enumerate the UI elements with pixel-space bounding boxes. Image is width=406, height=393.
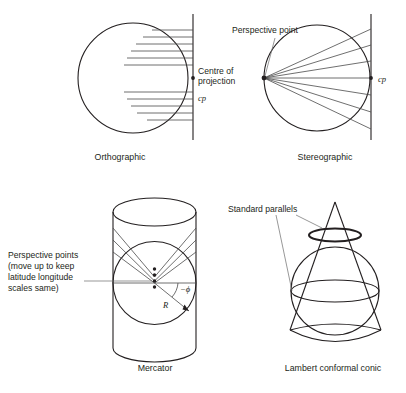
lambert-leader-line-lower [276,215,292,291]
mercator-caption: Mercator [138,363,173,373]
orthographic-caption: Orthographic [95,152,146,162]
lambert-leader-line-upper [296,215,322,228]
lambert-caption: Lambert conformal conic [285,363,382,373]
stereographic-cp-dot [369,76,373,80]
lambert-cone-right-slant [335,202,381,330]
panel-orthographic: Centre of projection cp Orthographic [78,14,235,162]
mercator-cylinder-bottom-arc [113,348,196,362]
lambert-cone-base-arc-back [290,324,381,330]
panel-mercator: −ϕ R Perspective points (move up to keep… [8,198,196,373]
panel-stereographic: Perspective point cp Stereographic [232,14,387,162]
lambert-standard-parallel-upper [309,229,361,242]
lambert-cone-base-arc-front [290,330,381,342]
orthographic-annotation-line1: Centre of [198,66,234,76]
mercator-radius-label: R [162,300,169,310]
stereographic-perspective-point-dot [262,76,267,81]
orthographic-globe [78,23,188,133]
orthographic-cp-symbol: cp [198,93,207,103]
mercator-annotation-line2: (move up to keep [8,261,75,271]
orthographic-projection-rays [124,30,193,120]
lambert-cone-left-slant [290,202,335,330]
map-projection-figure: Centre of projection cp Orthographic Per… [0,0,406,393]
panel-lambert: Standard parallels Lambert conformal con… [228,202,382,373]
mercator-angle-arc [172,283,178,297]
stereographic-projection-rays [264,29,371,129]
stereographic-cp-symbol: cp [378,74,387,84]
orthographic-annotation-line2: projection [198,76,235,86]
mercator-cylinder-top-ellipse [113,198,196,226]
mercator-perspective-points [153,267,156,288]
stereographic-caption: Stereographic [298,152,353,162]
orthographic-centre-of-projection-dot [191,76,195,80]
mercator-annotation-line1: Perspective points [8,250,78,260]
stereographic-annotation: Perspective point [232,25,299,35]
mercator-angle-label: −ϕ [180,284,191,294]
mercator-annotation-line3: latitude longitude [8,272,73,282]
stereographic-leader-line [265,38,275,76]
lambert-annotation: Standard parallels [228,204,297,214]
mercator-annotation-line4: scales same) [8,283,59,293]
figure-canvas: Centre of projection cp Orthographic Per… [0,0,406,393]
